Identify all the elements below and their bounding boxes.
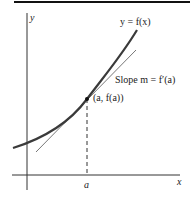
x-axis-label: x <box>177 177 181 187</box>
x-tick-label-a: a <box>84 180 89 190</box>
point-label: (a, f(a)) <box>93 93 124 103</box>
function-curve <box>13 30 137 148</box>
y-axis-label: y <box>30 13 34 23</box>
tangent-slope-label: Slope m = f′(a) <box>115 75 175 85</box>
curve-label: y = f(x) <box>120 17 151 27</box>
point-of-tangency <box>85 97 89 101</box>
